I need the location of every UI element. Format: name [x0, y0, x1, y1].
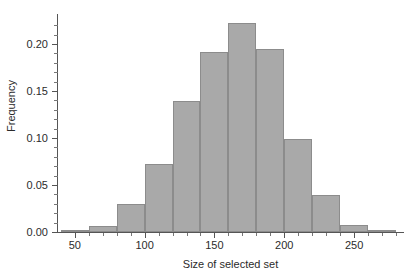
x-tick-minor [340, 233, 341, 236]
x-tick-label: 100 [125, 240, 165, 251]
y-tick-minor [54, 53, 58, 54]
y-tick-minor [54, 157, 58, 158]
histogram-bar [284, 139, 312, 232]
histogram-bar [117, 204, 145, 232]
x-tick-minor [242, 233, 243, 236]
y-tick-minor [54, 194, 58, 195]
x-tick-minor [159, 233, 160, 236]
x-tick-minor [298, 233, 299, 236]
x-tick [75, 233, 76, 238]
x-tick-minor [270, 233, 271, 236]
x-tick-minor [131, 233, 132, 236]
x-axis-line [57, 232, 404, 233]
y-tick [52, 185, 58, 186]
histogram-bar [145, 164, 173, 232]
x-tick-minor [368, 233, 369, 236]
histogram-bar [256, 49, 284, 232]
y-tick-minor [54, 35, 58, 36]
x-axis-title: Size of selected set [58, 258, 403, 270]
y-tick-minor [54, 204, 58, 205]
histogram-figure: 0.000.050.100.150.20 50100150200250 Freq… [0, 0, 419, 278]
x-tick [214, 233, 215, 238]
x-tick-minor [396, 233, 397, 236]
y-tick-minor [54, 166, 58, 167]
x-tick [284, 233, 285, 238]
y-tick-label: 0.20 [8, 39, 48, 50]
y-tick-minor [54, 223, 58, 224]
y-tick-minor [54, 129, 58, 130]
plot-area [58, 14, 403, 232]
y-tick-minor [54, 100, 58, 101]
x-tick-minor [382, 233, 383, 236]
y-tick-minor [54, 63, 58, 64]
x-tick-label: 50 [55, 240, 95, 251]
y-tick [52, 44, 58, 45]
y-tick-minor [54, 82, 58, 83]
y-tick-label: 0.00 [8, 227, 48, 238]
y-tick [52, 138, 58, 139]
y-tick-label: 0.05 [8, 180, 48, 191]
x-tick-minor [173, 233, 174, 236]
y-tick-minor [54, 176, 58, 177]
y-tick-minor [54, 25, 58, 26]
x-tick-label: 250 [334, 240, 374, 251]
y-axis-line [57, 14, 58, 233]
x-tick-minor [312, 233, 313, 236]
y-tick-minor [54, 147, 58, 148]
x-tick-minor [103, 233, 104, 236]
y-tick-minor [54, 110, 58, 111]
y-tick-minor [54, 72, 58, 73]
histogram-bar [173, 101, 201, 232]
histogram-bar [312, 195, 340, 232]
x-tick-label: 200 [264, 240, 304, 251]
x-tick-minor [89, 233, 90, 236]
x-tick [145, 233, 146, 238]
y-axis-title: Frequency [5, 61, 17, 151]
y-tick [52, 232, 58, 233]
x-tick-minor [117, 233, 118, 236]
x-tick-minor [200, 233, 201, 236]
histogram-bar [200, 52, 228, 232]
x-tick-label: 150 [194, 240, 234, 251]
x-tick-minor [187, 233, 188, 236]
x-tick-minor [256, 233, 257, 236]
histogram-bar [228, 23, 256, 232]
histogram-bars [58, 14, 403, 232]
x-tick-minor [228, 233, 229, 236]
y-tick [52, 91, 58, 92]
y-tick-minor [54, 119, 58, 120]
x-tick-minor [326, 233, 327, 236]
x-tick [354, 233, 355, 238]
y-tick-minor [54, 213, 58, 214]
